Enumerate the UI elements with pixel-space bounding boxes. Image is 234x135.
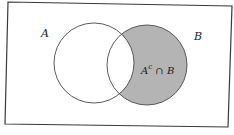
region-label: Ac ∩ B [140,63,174,76]
venn-diagram: A B Ac ∩ B [0,0,234,135]
set-a-label: A [40,27,49,40]
set-b-label: B [193,30,202,43]
region-label-base: A [140,65,148,76]
region-label-rest: ∩ B [152,65,174,76]
